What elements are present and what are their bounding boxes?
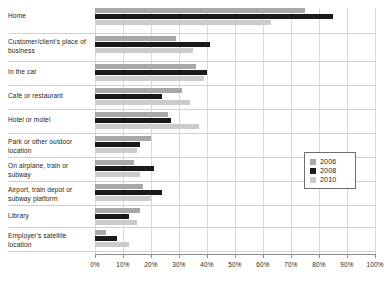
legend-label-2008: 2008 bbox=[320, 167, 336, 174]
bar-2006 bbox=[95, 160, 134, 165]
x-axis-tick-label: 10% bbox=[116, 261, 129, 268]
x-axis-tick-label: 20% bbox=[144, 261, 157, 268]
category-label: On airplane, train or subway bbox=[8, 162, 90, 179]
bar-2008 bbox=[95, 142, 140, 147]
gridline bbox=[375, 8, 376, 254]
category-label: Park or other outdoor location bbox=[8, 138, 90, 155]
category-label: Café or restaurant bbox=[8, 92, 90, 101]
gridline bbox=[347, 8, 348, 254]
category-label: Hotel or motel bbox=[8, 116, 90, 125]
row-separator bbox=[8, 33, 375, 34]
x-axis-tick bbox=[347, 254, 348, 258]
row-separator bbox=[8, 133, 375, 134]
bar-2006 bbox=[95, 230, 106, 235]
bar-2008 bbox=[95, 236, 117, 241]
x-axis-tick-label: 0% bbox=[90, 261, 100, 268]
row-separator bbox=[8, 61, 375, 62]
bar-2010 bbox=[95, 172, 140, 177]
x-axis-tick bbox=[291, 254, 292, 258]
bar-2008 bbox=[95, 94, 162, 99]
bar-2006 bbox=[95, 88, 182, 93]
legend-item: 2006 bbox=[310, 157, 351, 166]
category-label: Employer's satellite location bbox=[8, 232, 90, 249]
x-axis-tick bbox=[235, 254, 236, 258]
x-axis-tick-label: 50% bbox=[228, 261, 241, 268]
bar-2006 bbox=[95, 36, 176, 41]
gridline bbox=[263, 8, 264, 254]
bar-2008 bbox=[95, 214, 129, 219]
bar-2010 bbox=[95, 220, 137, 225]
x-axis-tick bbox=[95, 254, 96, 258]
bar-2008 bbox=[95, 42, 210, 47]
x-axis-tick-label: 80% bbox=[312, 261, 325, 268]
gridline bbox=[235, 8, 236, 254]
bar-2008 bbox=[95, 166, 154, 171]
bar-2010 bbox=[95, 196, 151, 201]
row-separator bbox=[8, 205, 375, 206]
row-separator bbox=[8, 251, 375, 252]
x-axis-tick-label: 90% bbox=[340, 261, 353, 268]
legend-swatch-2008 bbox=[310, 168, 316, 174]
row-separator bbox=[8, 227, 375, 228]
bar-2010 bbox=[95, 48, 193, 53]
bar-2008 bbox=[95, 70, 207, 75]
legend-item: 2010 bbox=[310, 175, 351, 184]
horizontal-bar-chart: HomeCustomer/client's place of businessI… bbox=[0, 0, 387, 284]
bar-2010 bbox=[95, 100, 190, 105]
x-axis-tick-label: 60% bbox=[256, 261, 269, 268]
bar-2010 bbox=[95, 124, 199, 129]
category-label: In the car bbox=[8, 68, 90, 77]
bar-2006 bbox=[95, 208, 140, 213]
bar-2006 bbox=[95, 112, 168, 117]
category-label: Library bbox=[8, 212, 90, 221]
row-separator bbox=[8, 109, 375, 110]
category-label: Airport, train depot or subway platform bbox=[8, 186, 90, 203]
x-axis-tick-label: 40% bbox=[200, 261, 213, 268]
bar-2006 bbox=[95, 8, 305, 13]
bar-2006 bbox=[95, 184, 143, 189]
bar-2010 bbox=[95, 242, 129, 247]
legend: 2006 2008 2010 bbox=[304, 152, 356, 189]
x-axis-tick bbox=[151, 254, 152, 258]
legend-item: 2008 bbox=[310, 166, 351, 175]
x-axis-tick bbox=[319, 254, 320, 258]
bar-2008 bbox=[95, 14, 333, 19]
legend-swatch-2010 bbox=[310, 177, 316, 183]
legend-swatch-2006 bbox=[310, 159, 316, 165]
x-axis-tick-label: 30% bbox=[172, 261, 185, 268]
x-axis-tick bbox=[375, 254, 376, 258]
bar-2010 bbox=[95, 20, 271, 25]
x-axis-tick-label: 70% bbox=[284, 261, 297, 268]
x-axis-tick-label: 100% bbox=[366, 261, 383, 268]
gridline bbox=[291, 8, 292, 254]
row-separator bbox=[8, 85, 375, 86]
bar-2006 bbox=[95, 136, 151, 141]
bar-2010 bbox=[95, 148, 137, 153]
bar-2010 bbox=[95, 76, 204, 81]
gridline bbox=[319, 8, 320, 254]
x-axis-tick bbox=[263, 254, 264, 258]
legend-label-2006: 2006 bbox=[320, 158, 336, 165]
category-label: Home bbox=[8, 12, 90, 21]
bar-2008 bbox=[95, 190, 162, 195]
bar-2006 bbox=[95, 64, 196, 69]
legend-label-2010: 2010 bbox=[320, 176, 336, 183]
bar-2008 bbox=[95, 118, 171, 123]
x-axis-tick bbox=[207, 254, 208, 258]
x-axis-tick bbox=[123, 254, 124, 258]
x-axis-tick bbox=[179, 254, 180, 258]
category-label: Customer/client's place of business bbox=[8, 38, 90, 55]
